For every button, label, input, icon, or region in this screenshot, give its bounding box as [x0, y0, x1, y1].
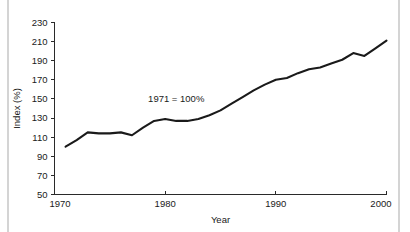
index-series-line [66, 41, 387, 147]
x-axis-title: Year [211, 214, 230, 225]
line-chart: 507090110130150170190210230 197019801990… [0, 0, 410, 232]
x-tick-label: 1970 [50, 198, 71, 209]
y-tick-label: 70 [37, 170, 48, 181]
x-tick-label: 2000 [370, 198, 391, 209]
chart-annotation: 1971 = 100% [148, 93, 205, 104]
chart-page: 507090110130150170190210230 197019801990… [0, 0, 410, 232]
y-axis-title: Index (%) [11, 88, 22, 129]
y-tick-label: 90 [37, 151, 48, 162]
x-tick-label: 1980 [155, 198, 176, 209]
y-axis-tick-marks [51, 23, 55, 195]
x-axis-tick-marks [165, 191, 386, 195]
y-tick-label: 130 [32, 112, 48, 123]
chart-axes [55, 23, 387, 195]
y-tick-label: 210 [32, 36, 48, 47]
y-tick-label: 150 [32, 93, 48, 104]
y-tick-label: 50 [37, 189, 48, 200]
x-tick-label: 1990 [265, 198, 286, 209]
y-tick-label: 170 [32, 74, 48, 85]
y-tick-label: 190 [32, 55, 48, 66]
y-axis-tick-labels: 507090110130150170190210230 [32, 17, 48, 200]
y-tick-label: 110 [32, 132, 47, 143]
y-tick-label: 230 [32, 17, 48, 28]
x-axis-tick-labels: 1970198019902000 [50, 198, 392, 209]
